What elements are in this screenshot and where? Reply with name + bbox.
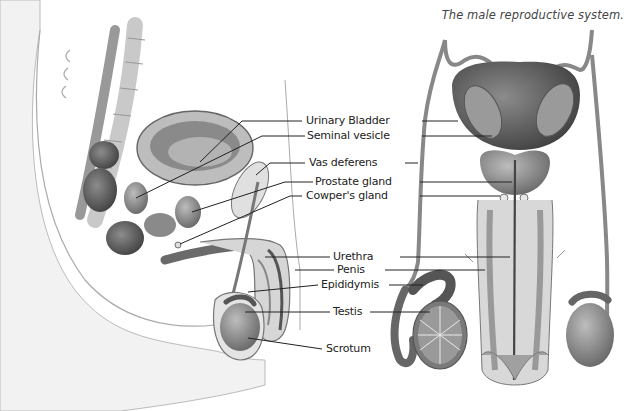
testis-sagittal	[214, 292, 264, 360]
bladder-sagittal	[137, 111, 253, 185]
label-cowpers-gland: Cowper's gland	[306, 189, 388, 202]
penis-frontal	[465, 160, 565, 385]
illustration	[0, 0, 634, 411]
label-scrotum: Scrotum	[326, 342, 371, 355]
prostate-shape	[175, 196, 201, 228]
label-prostate-gland: Prostate gland	[315, 175, 392, 188]
label-penis: Penis	[337, 263, 365, 276]
frontal-view	[395, 30, 614, 385]
pelvic-tissue	[144, 213, 176, 237]
label-urinary-bladder: Urinary Bladder	[306, 114, 389, 127]
vas-deferens-right	[592, 55, 608, 330]
label-testis: Testis	[333, 305, 362, 318]
anatomy-diagram: The male reproductive system.	[0, 0, 634, 411]
sagittal-view	[0, 0, 300, 411]
cowpers-gland-shape	[175, 242, 181, 248]
label-seminal-vesicle: Seminal vesicle	[307, 129, 390, 142]
label-vas-deferens: Vas deferens	[309, 156, 377, 169]
vas-deferens-left	[405, 40, 445, 290]
label-epididymis: Epididymis	[321, 278, 379, 291]
label-urethra: Urethra	[333, 250, 373, 263]
testis-section	[395, 275, 467, 369]
